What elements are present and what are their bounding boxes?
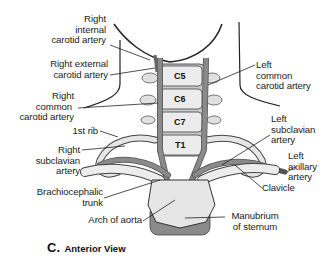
label-left-subclavian-artery: Left subclavian artery	[271, 114, 331, 146]
right-external-carotid	[155, 55, 157, 72]
label-right-external-carotid: Right external carotid artery	[36, 59, 108, 80]
vertebra-c6: C6	[174, 94, 186, 104]
vertebra-c5: C5	[174, 71, 186, 81]
vertebra-c7: C7	[174, 117, 186, 127]
caption-text: Anterior View	[64, 243, 125, 254]
label-first-rib: 1st rib	[60, 126, 98, 137]
label-brachiocephalic-trunk: Brachiocephalic trunk	[30, 187, 103, 208]
label-right-subclavian-artery: Right subclavian artery	[30, 145, 80, 177]
vertebra-t1: T1	[175, 140, 186, 150]
jaw-outline	[114, 24, 222, 62]
caption-letter: C.	[47, 240, 60, 255]
label-arch-of-aorta: Arch of aorta	[80, 215, 142, 226]
label-left-common-carotid: Left common carotid artery	[256, 60, 331, 92]
manubrium-of-sternum	[148, 180, 215, 228]
figure-caption: C. Anterior View	[47, 238, 126, 256]
label-left-axillary-artery: Left axillary artery	[288, 151, 333, 183]
label-right-internal-carotid: Right internal carotid artery	[40, 14, 106, 46]
label-clavicle: Clavicle	[262, 183, 312, 194]
label-right-common-carotid: Right common carotid artery	[4, 91, 74, 123]
label-manubrium-of-sternum: Manubrium of sternum	[226, 211, 284, 232]
